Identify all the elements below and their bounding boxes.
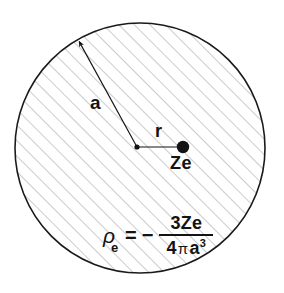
fraction-denominator: 4πa3	[165, 236, 209, 257]
denominator-lead: 4	[167, 238, 177, 258]
nucleus-label-ze: Ze	[170, 154, 192, 172]
rho-symbol: ρ e	[103, 224, 117, 248]
fraction: 3Ze 4πa3	[159, 214, 213, 257]
sphere-center-dot	[134, 144, 139, 149]
equals-sign: =	[125, 224, 137, 247]
pi-glyph: π	[177, 240, 190, 257]
rho-subscript: e	[111, 240, 118, 255]
denominator-variable: a	[190, 238, 200, 258]
thomson-atom-figure: a r Ze ρ e = − 3Ze 4πa3	[0, 0, 284, 293]
charge-density-formula: ρ e = − 3Ze 4πa3	[103, 214, 213, 257]
fraction-numerator: 3Ze	[168, 214, 204, 234]
nucleus-dot	[177, 141, 189, 153]
minus-sign: −	[142, 224, 154, 247]
radius-label-a: a	[90, 93, 101, 112]
distance-label-r: r	[155, 122, 162, 140]
denominator-exponent: 3	[200, 237, 206, 249]
